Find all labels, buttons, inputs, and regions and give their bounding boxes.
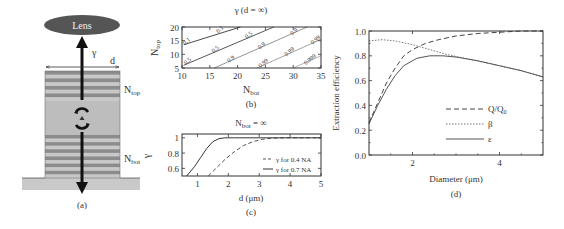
panel-b-label: (b) — [246, 99, 257, 109]
panel-c-ylabel: γ — [141, 153, 152, 159]
contour-label: 0.999 — [303, 53, 317, 66]
svg-text:20: 20 — [233, 71, 243, 81]
svg-text:4: 4 — [497, 158, 502, 168]
panel-b-xlabel: Nbot — [243, 84, 259, 97]
panel-d-axes — [369, 31, 543, 155]
legend-epsilon: ε — [488, 134, 492, 144]
svg-text:15: 15 — [170, 36, 180, 46]
panel-d-xlabel: Diameter (μm) — [429, 174, 483, 184]
series-line — [369, 56, 543, 124]
svg-text:2: 2 — [226, 179, 231, 189]
svg-text:0.8: 0.8 — [168, 149, 180, 159]
contour-lines: 0.10.10.50.50.50.90.90.90.990.990.990.99… — [182, 25, 322, 69]
panel-c-xlabel: d (μm) — [239, 193, 264, 203]
svg-text:15: 15 — [205, 71, 215, 81]
svg-text:25: 25 — [261, 71, 271, 81]
contour-label: 0.9 — [257, 41, 267, 50]
svg-text:5: 5 — [175, 64, 180, 74]
contour-label: 0.9 — [226, 54, 236, 63]
series-line — [369, 40, 543, 77]
panel-c-label: (c) — [246, 207, 256, 217]
svg-text:10: 10 — [170, 50, 180, 60]
svg-text:0.2: 0.2 — [355, 126, 366, 136]
panel-b-title: γ (d = ∞) — [234, 5, 268, 15]
panel-d-series — [369, 31, 543, 124]
panel-d-line-plot: 240.00.20.40.60.81.0 Extraction efficien… — [331, 27, 543, 200]
panel-c-line-plot: Nbot = ∞ 123450.60.81 γ d (μm) (c) γ for… — [141, 118, 324, 217]
contour-label: 0.5 — [183, 56, 193, 65]
legend-q-q0: Q/Q0 — [488, 104, 507, 115]
panel-d-ticks: 240.00.20.40.60.81.0 — [355, 27, 543, 169]
svg-text:35: 35 — [317, 71, 327, 81]
panel-a-label: (a) — [77, 200, 87, 210]
d-label: d — [110, 55, 115, 66]
lens-label: Lens — [72, 20, 92, 31]
svg-text:1.0: 1.0 — [355, 27, 367, 37]
contour-label: 0.5 — [244, 30, 254, 39]
svg-text:0.8: 0.8 — [355, 51, 367, 61]
contour-label: 0.5 — [210, 45, 220, 54]
svg-text:1: 1 — [175, 133, 180, 143]
contour-label: 0.99 — [309, 34, 321, 45]
contour-label: 0.99 — [283, 46, 295, 57]
legend-07na: γ for 0.7 NA — [275, 166, 311, 174]
panel-d-legend: Q/Q0 β ε — [446, 104, 507, 144]
svg-text:4: 4 — [288, 179, 293, 189]
svg-text:0.6: 0.6 — [168, 164, 180, 174]
svg-text:5: 5 — [319, 179, 324, 189]
contour-label: 0.9 — [289, 27, 299, 36]
contour-line — [184, 27, 241, 45]
svg-text:0.0: 0.0 — [355, 151, 367, 161]
panel-b-contour-plot: γ (d = ∞) 0.10.10.50.50.50.90.90.90.990.… — [149, 5, 326, 109]
svg-text:3: 3 — [257, 179, 262, 189]
legend-04na: γ for 0.4 NA — [275, 156, 311, 164]
svg-text:1: 1 — [195, 179, 200, 189]
panel-c-title: Nbot = ∞ — [235, 118, 266, 130]
nbot-label: Nbot — [124, 153, 140, 166]
panel-d-label: (d) — [451, 189, 462, 199]
contour-label: 0.99 — [257, 57, 269, 68]
svg-text:20: 20 — [170, 23, 180, 33]
svg-text:30: 30 — [289, 71, 299, 81]
panel-a-diagram: Lens γ d Ntop Nbot (a) — [22, 15, 141, 210]
svg-text:0.6: 0.6 — [355, 76, 367, 86]
gamma-label: γ — [91, 47, 97, 58]
svg-text:2: 2 — [410, 158, 415, 168]
legend-beta: β — [488, 119, 493, 129]
panel-c-legend: γ for 0.4 NA γ for 0.7 NA — [263, 156, 311, 174]
panel-b-ylabel: Ntop — [149, 39, 162, 56]
panel-d-ylabel: Extraction efficiency — [331, 55, 341, 131]
svg-text:0.4: 0.4 — [355, 101, 367, 111]
ntop-label: Ntop — [124, 84, 141, 97]
figure: Lens γ d Ntop Nbot (a) γ (d = ∞) 0.10.10… — [0, 0, 564, 229]
